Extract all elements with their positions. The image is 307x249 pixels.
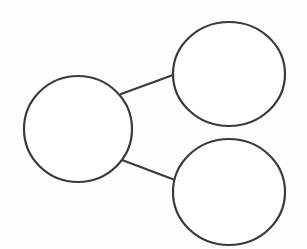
edge-center-to-bottom-right (122, 160, 175, 180)
edge-center-to-top-right (121, 75, 173, 94)
diagram-canvas (0, 0, 307, 249)
node-bottom-right (173, 139, 285, 245)
node-top-right (173, 22, 285, 126)
nodes-group (24, 22, 285, 245)
node-center (24, 76, 132, 182)
